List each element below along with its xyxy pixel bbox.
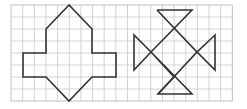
figure-outline	[134, 10, 192, 94]
grid-figures-diagram	[0, 0, 247, 109]
